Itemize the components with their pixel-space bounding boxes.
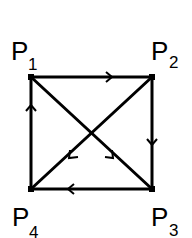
node-p4	[28, 186, 34, 192]
label-p1: P	[11, 36, 28, 66]
node-p3	[149, 186, 155, 192]
label-p1-subscript: 1	[28, 55, 37, 74]
label-p4: P	[12, 202, 29, 232]
node-p1	[28, 74, 34, 80]
label-p3: P	[151, 202, 168, 232]
node-p2	[149, 74, 155, 80]
label-p2-subscript: 2	[169, 53, 178, 72]
label-p4-subscript: 4	[29, 223, 38, 238]
label-p3-subscript: 3	[169, 221, 178, 238]
graph-diagram: P 1 P 2 P 3 P 4	[0, 0, 192, 238]
label-p2: P	[151, 36, 168, 66]
